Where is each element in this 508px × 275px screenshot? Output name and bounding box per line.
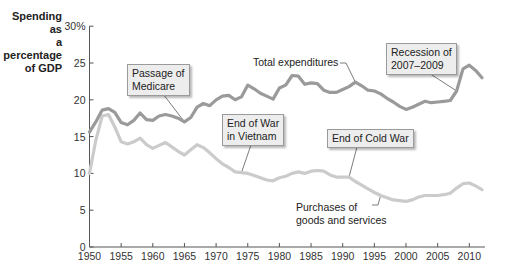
label-total-expenditures: Total expenditures <box>253 56 338 69</box>
y-tick-label: 10 <box>74 167 86 179</box>
y-tick-label: 20 <box>74 94 86 106</box>
callout-line: Recession of <box>391 46 452 59</box>
x-tick-label: 1970 <box>204 250 228 262</box>
x-tick-label: 1965 <box>173 250 197 262</box>
callout-line: Medicare <box>132 80 185 93</box>
x-tick-label: 1975 <box>236 250 260 262</box>
callout-recession-2007-2009: Recession of 2007–2009 <box>386 43 457 75</box>
x-tick-label: 1960 <box>141 250 165 262</box>
callout-line: in Vietnam <box>227 130 279 143</box>
label-text: Purchases of <box>296 201 386 214</box>
leader-line <box>241 142 252 173</box>
x-tick-label: 1985 <box>299 250 323 262</box>
callout-end-of-cold-war: End of Cold War <box>327 129 414 148</box>
callout-line: 2007–2009 <box>391 59 452 72</box>
callout-passage-of-medicare: Passage of Medicare <box>127 64 190 96</box>
x-tick-label: 2005 <box>426 250 450 262</box>
callout-line: End of Cold War <box>332 132 409 145</box>
x-tick-label: 1980 <box>268 250 292 262</box>
x-tick-label: 1950 <box>78 250 102 262</box>
label-text: Total expenditures <box>253 56 338 68</box>
x-tick-label: 1990 <box>331 250 355 262</box>
y-tick-label: 15 <box>74 131 86 143</box>
purchases-of-goods-and-services-line <box>90 115 483 202</box>
y-tick-label: 25 <box>74 57 86 69</box>
callout-line: Passage of <box>132 67 185 80</box>
x-tick-label: 1995 <box>363 250 387 262</box>
label-text: goods and services <box>296 214 386 227</box>
y-tick-label: 30% <box>64 20 85 32</box>
leader-line <box>340 63 355 82</box>
callout-end-of-war-in-vietnam: End of War in Vietnam <box>222 114 284 146</box>
callout-line: End of War <box>227 117 279 130</box>
x-tick-label: 2010 <box>458 250 482 262</box>
x-tick-label: 1955 <box>109 250 133 262</box>
label-purchases-of-goods-and-services: Purchases of goods and services <box>296 201 386 227</box>
x-tick-label: 2000 <box>394 250 418 262</box>
leader-line <box>349 143 358 177</box>
y-tick-label: 5 <box>80 204 86 216</box>
